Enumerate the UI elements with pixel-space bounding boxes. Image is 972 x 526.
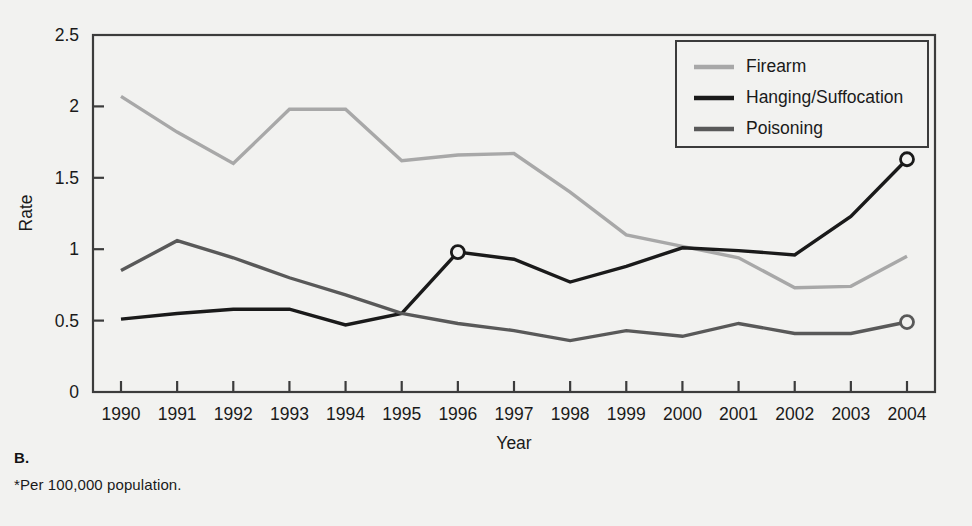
x-tick-label: 2003 <box>831 404 870 424</box>
figure-panel: 00.511.522.5 199019911992199319941995199… <box>0 0 972 526</box>
x-tick-label: 1993 <box>270 404 309 424</box>
y-tick-label: 1 <box>69 239 79 259</box>
x-tick-label: 1991 <box>158 404 197 424</box>
x-axis-tick-labels: 1990199119921993199419951996199719981999… <box>102 404 927 424</box>
x-tick-label: 2001 <box>719 404 758 424</box>
legend-label: Poisoning <box>746 118 823 138</box>
data-point-marker <box>901 316 914 329</box>
footnote: *Per 100,000 population. <box>14 474 614 496</box>
x-tick-label: 1995 <box>382 404 421 424</box>
legend-label: Firearm <box>746 56 806 76</box>
y-tick-label: 2.5 <box>55 25 79 45</box>
line-chart: 00.511.522.5 199019911992199319941995199… <box>0 0 972 470</box>
x-tick-label: 1994 <box>326 404 365 424</box>
y-tick-label: 2 <box>69 96 79 116</box>
y-tick-label: 0 <box>69 382 79 402</box>
x-axis-ticks <box>121 381 907 392</box>
chart-legend: FirearmHanging/SuffocationPoisoning <box>676 41 928 147</box>
y-axis-tick-labels: 00.511.522.5 <box>55 25 80 402</box>
x-tick-label: 1992 <box>214 404 253 424</box>
x-tick-label: 2002 <box>775 404 814 424</box>
x-tick-label: 1997 <box>495 404 534 424</box>
x-tick-label: 1990 <box>102 404 141 424</box>
data-point-marker <box>451 246 464 259</box>
series-line-hanging-suffocation <box>121 159 907 325</box>
y-axis-title: Rate <box>16 195 36 232</box>
data-point-marker <box>901 153 914 166</box>
y-tick-label: 0.5 <box>55 311 79 331</box>
x-tick-label: 2000 <box>663 404 702 424</box>
y-axis-ticks <box>93 106 104 320</box>
x-tick-label: 2004 <box>888 404 927 424</box>
x-tick-label: 1996 <box>438 404 477 424</box>
caption-block: B. *Per 100,000 population. <box>14 448 614 496</box>
legend-label: Hanging/Suffocation <box>746 87 903 107</box>
panel-letter: B. <box>14 448 614 468</box>
y-tick-label: 1.5 <box>55 168 79 188</box>
x-tick-label: 1998 <box>551 404 590 424</box>
x-tick-label: 1999 <box>607 404 646 424</box>
